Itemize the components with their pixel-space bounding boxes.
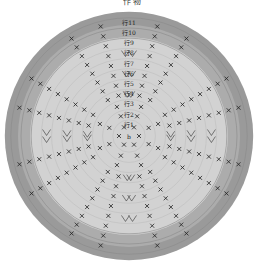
round-label: 行7 [124,60,134,68]
round-label: 行6 [124,70,134,78]
magic-ring-label: b [127,133,131,140]
round-label: 行2 [124,111,134,119]
crochet-chart: 行1行2行3行4行5行6行7行8行9行10行11 b [0,0,264,269]
round-label: 行4 [124,90,134,98]
round-label: 行11 [122,19,136,27]
round-label: 行1 [124,121,134,129]
round-label: 行10 [122,29,136,37]
round-label: 行5 [124,80,134,88]
round-label: 行8 [124,49,134,57]
round-label: 行3 [124,100,134,108]
round-label: 行9 [124,39,134,47]
